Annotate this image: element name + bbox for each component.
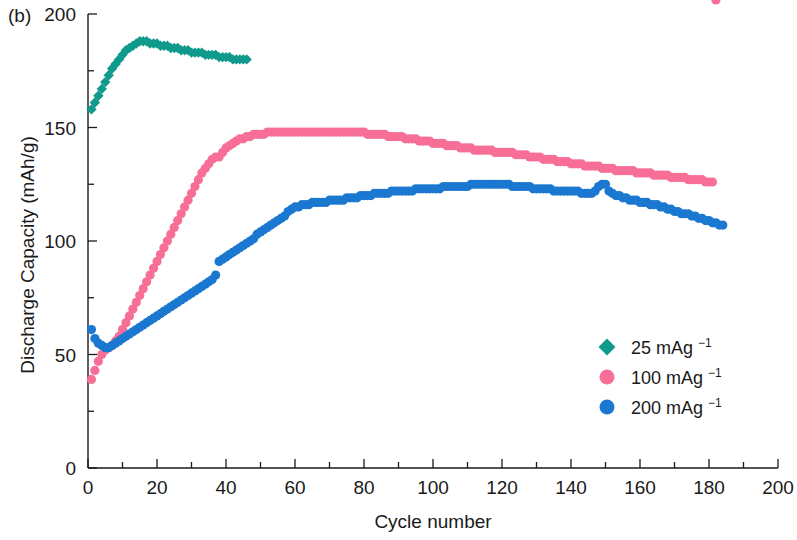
y-tick-label: 50 bbox=[55, 345, 76, 366]
legend-marker-diamond bbox=[599, 339, 616, 356]
data-point bbox=[87, 325, 96, 334]
x-tick-labels: 020406080100120140160180200 bbox=[83, 477, 794, 498]
chart-legend: 25 mAg −1100 mAg −1200 mAg −1 bbox=[599, 336, 723, 418]
series-1 bbox=[86, 36, 252, 115]
x-tick-label: 0 bbox=[83, 477, 94, 498]
x-tick-label: 80 bbox=[353, 477, 374, 498]
panel-label: (b) bbox=[8, 5, 31, 26]
x-tick-label: 60 bbox=[284, 477, 305, 498]
legend-label: 100 mAg −1 bbox=[631, 366, 722, 388]
y-tick-labels: 050100150200 bbox=[44, 4, 76, 479]
legend-item-3[interactable]: 200 mAg −1 bbox=[600, 396, 723, 418]
x-tick-label: 140 bbox=[555, 477, 587, 498]
x-tick-label: 100 bbox=[417, 477, 449, 498]
panel-label-text: (b) bbox=[8, 5, 31, 26]
x-tick-label: 40 bbox=[215, 477, 236, 498]
x-tick-label: 120 bbox=[486, 477, 518, 498]
data-point bbox=[708, 177, 717, 186]
data-point bbox=[90, 366, 99, 375]
legend-item-1[interactable]: 25 mAg −1 bbox=[599, 336, 713, 358]
y-axis-title: Discharge Capacity (mAh/g) bbox=[17, 136, 38, 374]
x-tick-label: 160 bbox=[624, 477, 656, 498]
data-series-group bbox=[86, 0, 727, 384]
discharge-capacity-chart: (b) 050100150200 02040608010012014016018… bbox=[0, 0, 797, 540]
x-tick-label: 180 bbox=[693, 477, 725, 498]
data-point bbox=[211, 270, 220, 279]
legend-marker-circle bbox=[600, 400, 615, 415]
data-point bbox=[711, 0, 720, 5]
y-tick-label: 200 bbox=[44, 4, 76, 25]
legend-item-2[interactable]: 100 mAg −1 bbox=[600, 366, 723, 388]
legend-marker-circle bbox=[600, 370, 615, 385]
x-tick-label: 20 bbox=[146, 477, 167, 498]
x-tick-label: 200 bbox=[762, 477, 794, 498]
y-tick-label: 0 bbox=[65, 458, 76, 479]
legend-label: 200 mAg −1 bbox=[631, 396, 722, 418]
legend-label: 25 mAg −1 bbox=[631, 336, 712, 358]
y-tick-label: 150 bbox=[44, 118, 76, 139]
y-tick-label: 100 bbox=[44, 231, 76, 252]
data-point bbox=[718, 221, 727, 230]
x-axis-title: Cycle number bbox=[374, 511, 492, 532]
data-point bbox=[87, 375, 96, 384]
figure-panel-b: (b) 050100150200 02040608010012014016018… bbox=[0, 0, 797, 540]
